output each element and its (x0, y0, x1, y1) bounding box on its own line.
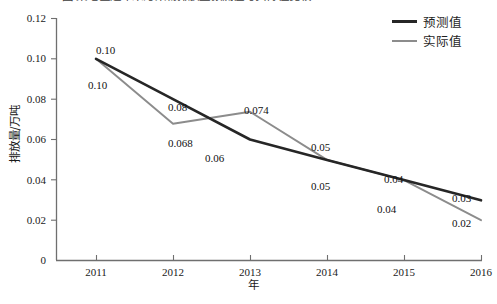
series-line-predicted (96, 59, 481, 201)
legend-line-icon-actual (392, 40, 417, 42)
y-axis-label: 排放量/万吨 (6, 89, 22, 179)
y-tick-label: 0.02 (12, 214, 46, 226)
data-label-actual: 0.074 (244, 104, 269, 116)
data-label-predicted: 0.05 (311, 141, 330, 153)
y-tick-label: 0.12 (12, 12, 46, 24)
x-axis-label: 年 (248, 276, 259, 292)
data-label-predicted: 0.08 (168, 101, 187, 113)
x-axis-ticks (97, 255, 482, 260)
data-label-actual: 0.02 (452, 217, 471, 229)
y-axis-ticks (51, 19, 56, 221)
x-tick-label: 2011 (73, 266, 119, 278)
x-tick-label: 2014 (304, 266, 350, 278)
data-label-predicted: 0.03 (452, 192, 471, 204)
chart-legend: 预测值 实际值 (392, 12, 486, 50)
legend-item-predicted: 预测值 (392, 12, 486, 31)
y-tick-label: 0.10 (12, 52, 46, 64)
data-label-predicted: 0.10 (96, 44, 115, 56)
data-label-actual: 0.068 (168, 137, 193, 149)
legend-line-icon-predicted (392, 20, 417, 23)
data-label-predicted: 0.04 (384, 173, 403, 185)
legend-label-predicted: 预测值 (423, 12, 462, 31)
x-tick-label: 2015 (381, 266, 427, 278)
y-tick-label: 0 (12, 254, 46, 266)
series-line-actual (96, 59, 481, 220)
data-label-actual: 0.10 (88, 79, 107, 91)
x-tick-label: 2012 (150, 266, 196, 278)
data-label-actual: 0.04 (377, 203, 396, 215)
legend-label-actual: 实际值 (423, 31, 462, 50)
data-label-predicted: 0.06 (205, 152, 224, 164)
x-tick-label: 2016 (458, 266, 497, 278)
data-label-actual: 0.05 (311, 180, 330, 192)
legend-item-actual: 实际值 (392, 31, 486, 50)
